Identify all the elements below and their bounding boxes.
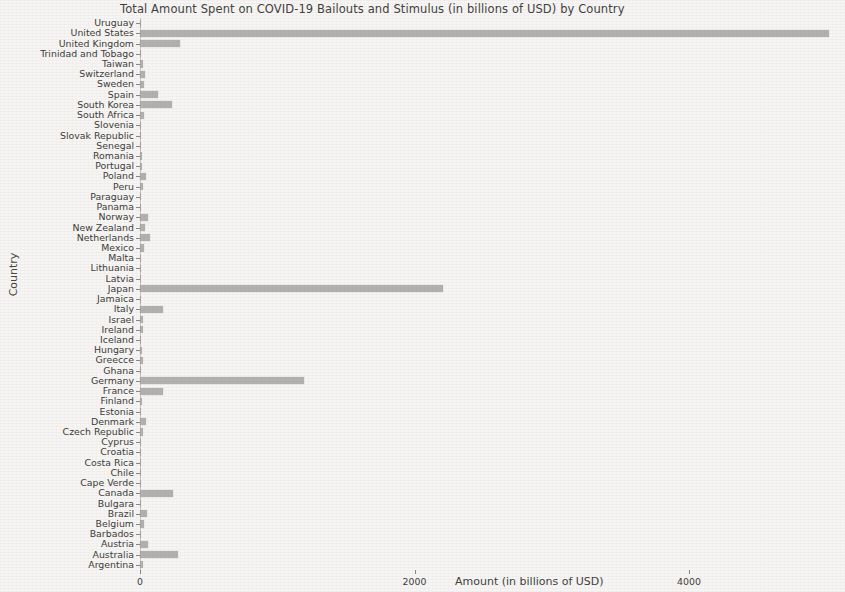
bar <box>140 30 829 37</box>
bar-row: Estonia <box>140 406 840 416</box>
y-tick-mark <box>136 176 140 177</box>
y-tick-mark <box>136 350 140 351</box>
bar-row: Ireland <box>140 325 840 335</box>
y-tick-mark <box>136 268 140 269</box>
y-tick-label: Sweden <box>0 79 134 89</box>
bar-row: Belgium <box>140 519 840 529</box>
y-tick-mark <box>136 360 140 361</box>
y-tick-mark <box>136 493 140 494</box>
y-tick-mark <box>136 228 140 229</box>
bar-row: Sweden <box>140 79 840 89</box>
bar <box>140 459 141 466</box>
bar-row: Ghana <box>140 366 840 376</box>
y-tick-label: Slovenia <box>0 120 134 130</box>
bar-row: South Africa <box>140 110 840 120</box>
y-tick-label: Finland <box>0 396 134 406</box>
bar-row: Argentina <box>140 560 840 570</box>
bar <box>140 500 141 507</box>
bar-row: Australia <box>140 550 840 560</box>
y-tick-label: Argentina <box>0 560 134 570</box>
bar <box>140 398 142 405</box>
bar-row: Bulgara <box>140 498 840 508</box>
bar-row: Finland <box>140 396 840 406</box>
bar <box>140 449 141 456</box>
y-tick-label: Greecce <box>0 355 134 365</box>
bar <box>140 81 144 88</box>
y-tick-label: Poland <box>0 171 134 181</box>
y-tick-label: United States <box>0 28 134 38</box>
bar-row: Trinidad and Tobago <box>140 49 840 59</box>
y-tick-mark <box>136 565 140 566</box>
bar <box>140 40 180 47</box>
bar <box>140 183 143 190</box>
y-tick-mark <box>136 54 140 55</box>
bar-row: Japan <box>140 284 840 294</box>
bar-row: Poland <box>140 171 840 181</box>
bar <box>140 347 142 354</box>
y-tick-label: Italy <box>0 304 134 314</box>
bar-row: Cyprus <box>140 437 840 447</box>
bar <box>140 520 144 527</box>
bar <box>140 50 141 57</box>
bar-row: Hungary <box>140 345 840 355</box>
chart-figure: Total Amount Spent on COVID-19 Bailouts … <box>0 0 845 592</box>
y-tick-mark <box>136 483 140 484</box>
bar <box>140 214 148 221</box>
bar <box>140 163 142 170</box>
y-tick-mark <box>136 115 140 116</box>
y-tick-label: Austria <box>0 539 134 549</box>
bar-row: Slovenia <box>140 120 840 130</box>
bar-row: Peru <box>140 182 840 192</box>
y-tick-mark <box>136 125 140 126</box>
y-tick-mark <box>136 320 140 321</box>
y-tick-mark <box>136 95 140 96</box>
y-tick-mark <box>136 299 140 300</box>
y-tick-mark <box>136 555 140 556</box>
bar-row: United Kingdom <box>140 38 840 48</box>
bar <box>140 20 141 27</box>
y-tick-mark <box>136 309 140 310</box>
bar-row: Chile <box>140 468 840 478</box>
bar <box>140 204 141 211</box>
bar-row: Brazil <box>140 509 840 519</box>
chart-title: Total Amount Spent on COVID-19 Bailouts … <box>120 2 740 16</box>
bar <box>140 408 141 415</box>
y-tick-mark <box>136 432 140 433</box>
y-tick-mark <box>136 371 140 372</box>
bar <box>140 122 141 129</box>
bar-row: Panama <box>140 202 840 212</box>
bar <box>140 377 304 384</box>
bar <box>140 112 144 119</box>
x-tick-label: 0 <box>137 576 143 587</box>
y-tick-mark <box>136 64 140 65</box>
bar-row: New Zealand <box>140 222 840 232</box>
bar <box>140 531 141 538</box>
x-tick-mark <box>689 570 690 574</box>
bar <box>140 428 143 435</box>
bar-row: Spain <box>140 90 840 100</box>
bar-row: Germany <box>140 376 840 386</box>
bar-row: Canada <box>140 488 840 498</box>
bar-row: Latvia <box>140 274 840 284</box>
bar <box>140 101 172 108</box>
bar <box>140 469 141 476</box>
y-tick-mark <box>136 504 140 505</box>
y-tick-mark <box>136 197 140 198</box>
y-tick-mark <box>136 330 140 331</box>
y-tick-mark <box>136 33 140 34</box>
bar-row: Paraguay <box>140 192 840 202</box>
bar-row: Czech Republic <box>140 427 840 437</box>
bar <box>140 132 141 139</box>
bar-row: Uruguay <box>140 18 840 28</box>
bar <box>140 306 163 313</box>
y-tick-label: Norway <box>0 212 134 222</box>
y-tick-mark <box>136 156 140 157</box>
y-tick-mark <box>136 544 140 545</box>
x-tick-mark <box>140 570 141 574</box>
y-tick-mark <box>136 391 140 392</box>
bar <box>140 265 141 272</box>
bar <box>140 490 173 497</box>
y-tick-mark <box>136 473 140 474</box>
y-tick-mark <box>136 442 140 443</box>
y-tick-mark <box>136 412 140 413</box>
